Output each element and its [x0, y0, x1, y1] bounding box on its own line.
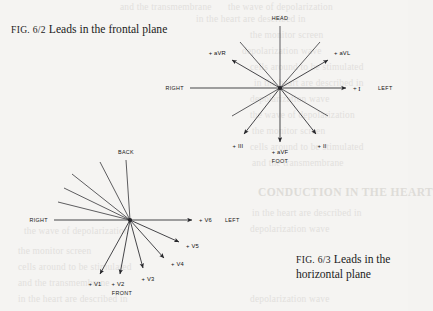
showthrough-line: the wave of depolarization — [228, 2, 333, 12]
frontal-ray-avr — [232, 60, 280, 88]
frontal-label-lead1: + I — [353, 85, 361, 92]
frontal-label-lead2: + II — [317, 143, 326, 149]
showthrough-heading: CONDUCTION IN THE HEART — [258, 186, 433, 198]
horizontal-plane-diagram: BACK RIGHT + V6 LEFT + V5 + V4 + V3 — [12, 140, 262, 300]
frontal-axis-lead3-negative — [280, 42, 320, 88]
horizontal-axis-v2-negative — [64, 188, 130, 220]
horizontal-label-v2: + V2 — [112, 281, 125, 287]
horizontal-label-front: FRONT — [112, 290, 133, 296]
horizontal-label-back: BACK — [118, 149, 134, 155]
horizontal-label-v4: + V4 — [171, 261, 184, 267]
horizontal-ray-v5 — [130, 220, 179, 242]
frontal-ray-avl — [280, 60, 328, 88]
figure-number-62: Fig. 6/2 — [11, 24, 46, 35]
figure-caption-62: Fig. 6/2 Leads in the frontal plane — [11, 22, 191, 37]
showthrough-line: in the heart are described in — [252, 208, 362, 218]
horizontal-label-v6: + V6 — [199, 217, 212, 223]
frontal-label-avf: + aVF — [272, 149, 289, 155]
frontal-label-avr: + aVR — [209, 50, 226, 56]
frontal-axis-avr-negative — [280, 88, 328, 116]
horizontal-ray-v1 — [100, 220, 130, 274]
frontal-axis-lead2-negative — [240, 42, 280, 88]
horizontal-label-v5: + V5 — [186, 243, 199, 249]
frontal-label-right: RIGHT — [165, 85, 184, 91]
horizontal-ray-v2 — [120, 220, 130, 274]
frontal-label-avl: + aVL — [334, 50, 351, 56]
horizontal-axis-back — [126, 160, 130, 220]
figure-number-63: Fig. 6/3 — [296, 254, 331, 265]
horizontal-label-v3: + V3 — [142, 276, 155, 282]
horizontal-label-right: RIGHT — [29, 217, 48, 223]
horizontal-label-left: LEFT — [225, 217, 240, 223]
showthrough-line: and the transmembrane — [120, 2, 212, 12]
figure-caption-62-text: Leads in the frontal plane — [49, 23, 167, 36]
frontal-axis-avl-negative — [232, 88, 280, 116]
frontal-ray-lead2 — [280, 88, 316, 134]
horizontal-label-v1: + V1 — [89, 281, 102, 287]
frontal-label-head: HEAD — [272, 15, 288, 21]
frontal-ray-lead3 — [244, 88, 280, 134]
figure-caption-63: Fig. 6/3 Leads in the horizontal plane — [296, 252, 406, 283]
frontal-label-foot: FOOT — [272, 158, 289, 164]
horizontal-axis-v4-negative — [100, 162, 130, 220]
frontal-label-left: LEFT — [378, 85, 393, 91]
